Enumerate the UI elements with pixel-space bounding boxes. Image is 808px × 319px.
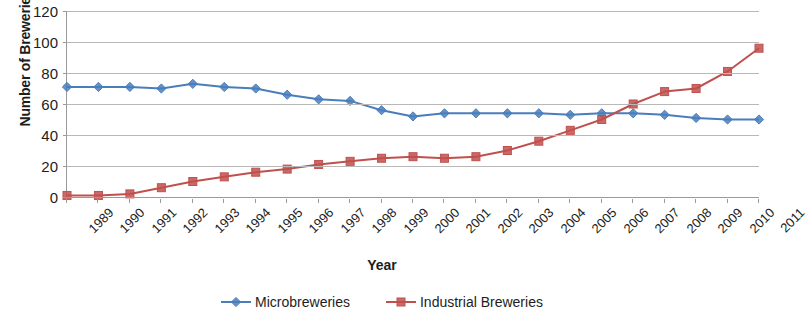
data-point-marker (94, 82, 103, 91)
diamond-marker-icon (221, 296, 251, 308)
x-axis-tick-label: 1996 (306, 205, 337, 236)
x-axis-tick-label: 1990 (117, 205, 148, 236)
data-point-marker (598, 116, 606, 124)
x-axis-tick-label: 1991 (148, 205, 179, 236)
data-point-marker (409, 153, 417, 161)
x-axis-tick-label: 1998 (369, 205, 400, 236)
legend-item[interactable]: Microbreweries (221, 294, 350, 310)
data-point-marker (251, 84, 260, 93)
chart-legend: MicrobreweriesIndustrial Breweries (0, 294, 764, 310)
x-axis-tickmark (318, 199, 319, 203)
x-axis-tickmark (443, 199, 444, 203)
y-axis-tick-label: 60 (14, 96, 58, 113)
gridline (67, 197, 759, 198)
x-axis-tick-label: 2004 (557, 205, 588, 236)
data-point-marker (377, 106, 386, 115)
data-point-marker (157, 84, 166, 93)
data-point-marker (566, 126, 574, 134)
legend-item-label: Industrial Breweries (420, 294, 543, 310)
gridline (67, 135, 759, 136)
data-point-marker (535, 137, 543, 145)
x-axis-tickmark (506, 199, 507, 203)
x-axis-tickmark (569, 199, 570, 203)
y-axis-tick-label: 0 (14, 189, 58, 206)
legend-item[interactable]: Industrial Breweries (386, 294, 543, 310)
data-point-marker (534, 109, 543, 118)
y-axis-tickmark (63, 11, 67, 12)
data-point-marker (691, 113, 700, 122)
x-axis-tickmark (664, 199, 665, 203)
x-axis-tickmark (66, 199, 67, 203)
data-point-marker (629, 109, 638, 118)
data-point-marker (125, 82, 134, 91)
x-axis-tick-label: 2002 (494, 205, 525, 236)
data-point-marker (283, 90, 292, 99)
y-axis-tick-label: 80 (14, 65, 58, 82)
data-point-marker (503, 109, 512, 118)
data-point-marker (566, 110, 575, 119)
x-axis-tick-label: 2008 (683, 205, 714, 236)
data-point-marker (692, 85, 700, 93)
data-point-marker (755, 44, 763, 52)
x-axis-tick-label: 2000 (431, 205, 462, 236)
data-point-marker (472, 153, 480, 161)
x-axis-tickmark (632, 199, 633, 203)
data-point-marker (471, 109, 480, 118)
gridline (67, 42, 759, 43)
x-axis-tickmark (695, 199, 696, 203)
data-point-marker (346, 157, 354, 165)
x-axis-tickmark (412, 199, 413, 203)
data-point-marker (378, 154, 386, 162)
x-axis-tick-label: 1999 (400, 205, 431, 236)
y-axis-tick-labels: 120100806040200 (14, 0, 58, 200)
x-axis-tickmark (255, 199, 256, 203)
data-point-marker (661, 88, 669, 96)
x-axis-tick-label: 2006 (620, 205, 651, 236)
x-axis-tickmark (223, 199, 224, 203)
x-axis-tickmark (381, 199, 382, 203)
y-axis-tick-label: 120 (14, 3, 58, 20)
x-axis-title: Year (0, 257, 764, 273)
x-axis-tick-label: 1994 (243, 205, 274, 236)
x-axis-tick-label: 1995 (274, 205, 305, 236)
gridline (67, 166, 759, 167)
x-axis-tickmark (601, 199, 602, 203)
legend-item-label: Microbreweries (255, 294, 350, 310)
data-point-marker (503, 147, 511, 155)
square-marker-icon (386, 296, 416, 308)
data-point-marker (189, 178, 197, 186)
x-axis-tick-label: 1992 (180, 205, 211, 236)
x-axis-tick-label: 2005 (589, 205, 620, 236)
x-axis-tick-label: 2003 (526, 205, 557, 236)
data-point-marker (314, 95, 323, 104)
gridline (67, 11, 759, 12)
x-axis-tickmark (727, 199, 728, 203)
data-point-marker (315, 160, 323, 168)
y-axis-tickmark (63, 104, 67, 105)
data-point-marker (220, 173, 228, 181)
data-point-marker (440, 154, 448, 162)
y-axis-tickmark (63, 73, 67, 74)
y-axis-tickmark (63, 166, 67, 167)
y-axis-tick-label: 100 (14, 34, 58, 51)
data-point-marker (188, 79, 197, 88)
x-axis-tickmark (349, 199, 350, 203)
x-axis-tick-label: 2001 (463, 205, 494, 236)
x-axis-tickmark (475, 199, 476, 203)
data-point-marker (252, 168, 260, 176)
x-axis-tickmark (286, 199, 287, 203)
x-axis-tick-label: 2009 (715, 205, 746, 236)
data-point-marker (724, 67, 732, 75)
x-axis-tick-label: 1989 (85, 205, 116, 236)
gridline (67, 104, 759, 105)
data-point-marker (440, 109, 449, 118)
x-axis-tickmark (129, 199, 130, 203)
data-point-marker (723, 115, 732, 124)
x-axis-tick-label: 2011 (777, 205, 807, 235)
y-axis-tick-label: 40 (14, 127, 58, 144)
gridline (67, 73, 759, 74)
y-axis-tickmark (63, 135, 67, 136)
data-point-marker (408, 112, 417, 121)
data-point-marker (62, 82, 71, 91)
